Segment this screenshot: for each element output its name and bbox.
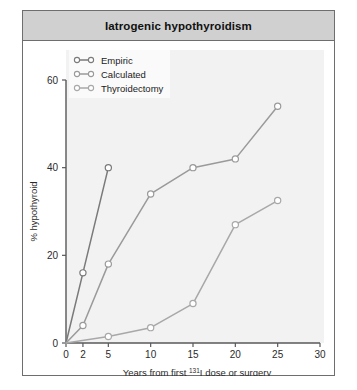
y-tick-label: 20 [47,250,59,261]
y-tick-label: 0 [52,338,58,349]
data-point [148,325,154,331]
x-axis-label: Years from first 131I dose or surgery [123,367,272,377]
x-tick-label: 0 [63,349,69,360]
data-point [275,103,281,109]
legend-label: Empiric [101,55,133,66]
x-tick-label: 10 [145,349,157,360]
chart-legend: EmpiricCalculatedThyroidectomy [69,50,170,98]
x-tick-label: 25 [272,349,284,360]
legend-marker-icon [73,55,95,65]
figure-panel: Iatrogenic hypothyroidism 02040600251015… [0,0,357,390]
data-point [232,156,238,162]
plot-area: 02040600251015202530 % hypothyroid Years… [23,42,334,376]
legend-item-thyroidectomy[interactable]: Thyroidectomy [73,81,163,95]
x-tick-label: 30 [314,349,326,360]
legend-item-empiric[interactable]: Empiric [73,53,163,67]
x-tick-label: 2 [80,349,86,360]
figure-title-bar: Iatrogenic hypothyroidism [23,11,334,41]
data-point [232,222,238,228]
y-tick-label: 60 [47,75,59,86]
data-point [105,165,111,171]
y-tick-label: 40 [47,162,59,173]
data-point [105,261,111,267]
data-point [148,191,154,197]
legend-marker-icon [73,69,95,79]
legend-item-calculated[interactable]: Calculated [73,67,163,81]
data-point [275,197,281,203]
data-point [105,333,111,339]
figure-frame: Iatrogenic hypothyroidism 02040600251015… [22,10,335,376]
data-point [190,300,196,306]
x-tick-label: 15 [187,349,199,360]
x-label-suffix: I dose or surgery [200,367,272,376]
x-tick-label: 20 [230,349,242,360]
data-point [80,322,86,328]
x-tick-label: 5 [106,349,112,360]
data-point [80,270,86,276]
data-point [190,165,196,171]
legend-label: Thyroidectomy [101,83,163,94]
x-label-superscript: 131 [189,367,200,374]
legend-label: Calculated [101,69,146,80]
legend-marker-icon [73,83,95,93]
page-title: Iatrogenic hypothyroidism [105,20,252,32]
x-label-prefix: Years from first [123,367,189,376]
y-axis-label: % hypothyroid [28,181,39,241]
